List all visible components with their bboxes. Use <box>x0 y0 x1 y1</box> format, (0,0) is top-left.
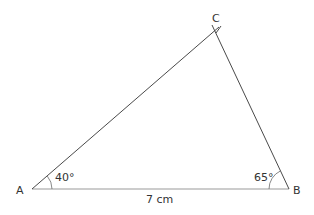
angle-label-a: 40° <box>55 171 75 184</box>
angle-arc-a <box>47 176 52 189</box>
vertex-label-b: B <box>293 184 301 197</box>
side-bc <box>212 25 289 189</box>
side-ac <box>32 27 219 189</box>
side-label-ab: 7 cm <box>146 193 173 206</box>
triangle-diagram: A B C 40° 65° 7 cm <box>0 0 314 215</box>
vertex-label-c: C <box>212 12 220 25</box>
vertex-label-a: A <box>16 184 24 197</box>
angle-label-b: 65° <box>254 171 274 184</box>
